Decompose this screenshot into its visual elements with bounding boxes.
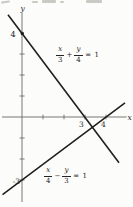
numerator: x	[56, 46, 64, 55]
equals-one: = 1	[85, 52, 99, 59]
x-tick-label-4: 4	[101, 120, 106, 129]
y-tick-label-4: 4	[10, 30, 15, 39]
y-tick-label-neg3: -3	[13, 177, 21, 186]
y-axis-label: y	[19, 4, 25, 13]
minus-operator: −	[54, 173, 60, 180]
textbook-figure: y x 4 3 4 -3 x 3 + y 4 = 1 x 4 − y 3 = 1	[0, 0, 133, 207]
equals-one: = 1	[73, 173, 87, 180]
denominator: 3	[56, 55, 64, 65]
fraction-x-over-3: x 3	[56, 46, 64, 64]
denominator: 4	[74, 55, 82, 65]
denominator: 4	[44, 176, 52, 186]
fraction-y-over-4: y 4	[74, 46, 82, 64]
fraction-y-over-3: y 3	[62, 167, 70, 185]
numerator: y	[63, 167, 71, 176]
denominator: 3	[62, 176, 70, 186]
numerator: x	[44, 167, 52, 176]
line-x3-plus-y4	[8, 15, 119, 163]
plus-operator: +	[66, 52, 72, 59]
equation-label-line1: x 3 + y 4 = 1	[56, 46, 99, 64]
equation-label-line2: x 4 − y 3 = 1	[44, 167, 87, 185]
y-intercept-point	[21, 32, 24, 35]
fraction-x-over-4: x 4	[44, 167, 52, 185]
numerator: y	[75, 46, 83, 55]
x-axis-label: x	[128, 113, 133, 122]
x-tick-label-3: 3	[79, 120, 84, 129]
